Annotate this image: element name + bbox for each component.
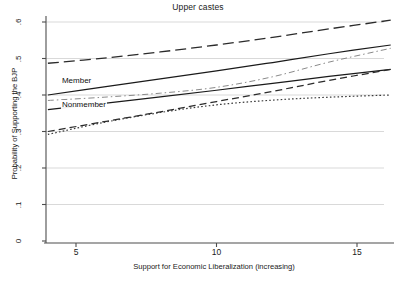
series-annotation-nonmember: Nonmember [61, 100, 107, 109]
y-tick-label: .2 [10, 162, 28, 174]
plot-area [0, 0, 396, 281]
y-tick-label: .4 [10, 89, 28, 101]
y-tick-label: 0 [10, 235, 28, 247]
series-annotation-member: Member [61, 76, 92, 85]
gridlines [46, 22, 384, 205]
x-tick-label: 10 [205, 247, 229, 257]
chart-figure: Upper castes Probability of Supporting t… [0, 0, 396, 281]
x-tick-label: 5 [64, 247, 88, 257]
series-line-series-2-solid-member [48, 45, 391, 95]
series-line-series-3-dash-dot-thin [48, 48, 391, 100]
y-tick-label: .5 [10, 53, 28, 65]
x-tick-label: 15 [345, 247, 369, 257]
y-tick-label: .6 [10, 16, 28, 28]
series-line-series-1-long-dash-top [48, 20, 391, 63]
y-tick-label: .1 [10, 199, 28, 211]
y-tick-label: .3 [10, 126, 28, 138]
data-series-group [48, 20, 391, 134]
